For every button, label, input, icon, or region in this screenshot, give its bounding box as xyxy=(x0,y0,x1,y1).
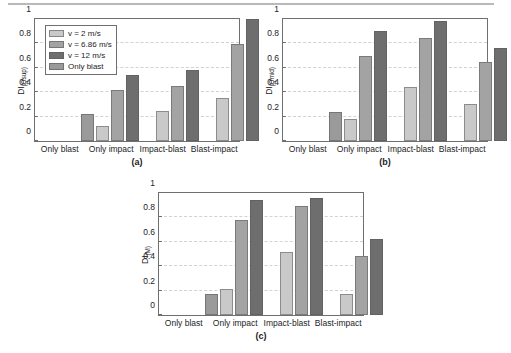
y-tick-label: 0.6 xyxy=(267,53,279,63)
x-axis-labels-a: Only blastOnly impactImpact-blastBlast-i… xyxy=(34,144,240,154)
bar xyxy=(329,112,342,141)
bar-slot xyxy=(494,19,507,141)
bar xyxy=(231,44,244,141)
y-tick-label: 0.6 xyxy=(19,53,31,63)
bar-slot xyxy=(314,19,327,141)
bar xyxy=(216,98,229,141)
bar-slot xyxy=(479,19,492,141)
bar-slot xyxy=(434,19,447,141)
bar xyxy=(96,126,109,141)
bar xyxy=(295,206,308,315)
bar xyxy=(344,119,357,141)
legend-item-onlyblast: Only blast xyxy=(49,61,112,72)
y-tick-label: 1 xyxy=(150,178,155,188)
bar-slot xyxy=(156,19,169,141)
bar-slot xyxy=(171,19,184,141)
x-axis-labels-b: Only blastOnly impactImpact-blastBlast-i… xyxy=(282,144,488,154)
legend-swatch-v2 xyxy=(49,30,64,37)
y-tick-label: 1 xyxy=(26,4,31,14)
bar xyxy=(359,56,372,141)
plot-area-a: v = 2 m/s v = 6.86 m/s v = 12 m/s Only b… xyxy=(34,18,240,142)
scan-line-artifact xyxy=(8,3,494,5)
bar-slot xyxy=(374,19,387,141)
bar xyxy=(126,75,139,141)
bar xyxy=(419,38,432,141)
y-tick-label: 0 xyxy=(26,126,31,136)
bar-slot xyxy=(160,193,173,315)
bar xyxy=(479,62,492,141)
y-tick-label: 0 xyxy=(150,300,155,310)
bar-slot xyxy=(186,19,199,141)
plot-area-b: 00.20.40.60.81 xyxy=(282,18,488,142)
legend: v = 2 m/s v = 6.86 m/s v = 12 m/s Only b… xyxy=(45,25,117,75)
bar-slot xyxy=(385,193,398,315)
legend-item-v2: v = 2 m/s xyxy=(49,28,112,39)
bar-slot xyxy=(235,193,248,315)
bar-slot xyxy=(419,19,432,141)
bar xyxy=(464,104,477,141)
bar xyxy=(404,87,417,141)
bar xyxy=(250,200,263,315)
chart-panel-a: DI(Qsup) v = 2 m/s v = 6.86 m/s v = 12 m… xyxy=(6,14,244,176)
bar-slot xyxy=(265,193,278,315)
chart-panel-b: DI(Qmid) 00.20.40.60.81 Only blastOnly i… xyxy=(254,14,492,176)
x-tick-label: Impact-blast xyxy=(261,318,313,328)
bar xyxy=(370,239,383,315)
bar-group xyxy=(339,193,399,315)
bar xyxy=(374,31,387,141)
x-tick-label: Only blast xyxy=(158,318,210,328)
bar-group xyxy=(159,193,219,315)
bar-slot xyxy=(216,19,229,141)
bar-slot xyxy=(464,19,477,141)
panel-caption-b: (b) xyxy=(282,157,488,167)
x-tick-label: Blast-impact xyxy=(313,318,365,328)
bar-slot xyxy=(340,193,353,315)
panel-caption-c: (c) xyxy=(158,331,364,341)
bar xyxy=(280,252,293,315)
bar xyxy=(340,294,353,315)
bar-group xyxy=(283,19,343,141)
bar xyxy=(205,294,218,315)
bar-slot xyxy=(344,19,357,141)
bar-slot xyxy=(299,19,312,141)
y-tick-label: 0.8 xyxy=(19,28,31,38)
legend-label-v2: v = 2 m/s xyxy=(68,29,101,38)
bar-slot xyxy=(449,19,462,141)
bar-group xyxy=(343,19,403,141)
bar-slot xyxy=(205,193,218,315)
bar xyxy=(235,220,248,315)
x-tick-label: Only impact xyxy=(86,144,138,154)
bar-slot xyxy=(141,19,154,141)
legend-swatch-onlyblast xyxy=(49,63,64,70)
bar-slot xyxy=(370,193,383,315)
legend-item-v686: v = 6.86 m/s xyxy=(49,39,112,50)
legend-swatch-v686 xyxy=(49,41,64,48)
bar-slot xyxy=(325,193,338,315)
legend-label-onlyblast: Only blast xyxy=(68,62,104,71)
y-tick-label: 0.2 xyxy=(19,102,31,112)
bar-slot xyxy=(389,19,402,141)
legend-label-v12: v = 12 m/s xyxy=(68,51,105,60)
bar-group xyxy=(219,193,279,315)
bar-slot xyxy=(329,19,342,141)
bar xyxy=(186,70,199,141)
y-tick-label: 0.4 xyxy=(267,77,279,87)
bar-slot xyxy=(295,193,308,315)
legend-swatch-v12 xyxy=(49,52,64,59)
bar-slot xyxy=(220,193,233,315)
x-tick-label: Only impact xyxy=(210,318,262,328)
x-tick-label: Impact-blast xyxy=(137,144,189,154)
y-tick-label: 0.4 xyxy=(19,77,31,87)
x-tick-label: Blast-impact xyxy=(437,144,489,154)
legend-item-v12: v = 12 m/s xyxy=(49,50,112,61)
y-tick-label: 1 xyxy=(274,4,279,14)
bar xyxy=(156,111,169,141)
bar-slot xyxy=(310,193,323,315)
bar xyxy=(434,21,447,141)
bar-slot xyxy=(280,193,293,315)
chart-panel-c: DI(M) 00.20.40.60.81 Only blastOnly impa… xyxy=(130,188,368,350)
bar-slot xyxy=(175,193,188,315)
bar xyxy=(81,114,94,141)
bar-slot xyxy=(250,193,263,315)
bar-slot xyxy=(404,19,417,141)
